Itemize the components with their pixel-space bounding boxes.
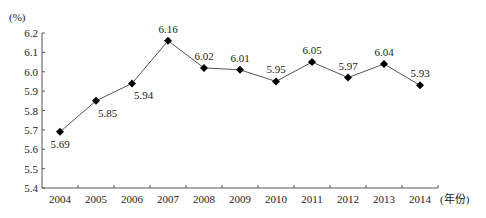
y-tick-label: 6.2: [24, 27, 38, 39]
x-tick-label: 2010: [265, 193, 288, 205]
y-axis: 5.45.55.65.75.85.96.06.16.2: [24, 27, 45, 194]
x-tick-label: 2008: [193, 193, 216, 205]
y-tick-label: 5.6: [24, 143, 38, 155]
y-axis-label: (%): [9, 11, 26, 24]
data-label: 6.04: [374, 46, 394, 58]
y-tick-label: 5.7: [24, 124, 38, 136]
data-series: 5.695.855.946.166.026.015.956.055.976.04…: [50, 23, 430, 150]
diamond-marker: [272, 77, 280, 85]
data-label: 5.97: [338, 60, 358, 72]
x-tick-label: 2012: [337, 193, 359, 205]
data-label: 5.69: [50, 138, 70, 150]
x-tick-label: 2013: [373, 193, 396, 205]
x-tick-label: 2006: [121, 193, 144, 205]
diamond-marker: [416, 81, 424, 89]
data-label: 5.93: [410, 67, 430, 79]
data-label: 5.94: [134, 89, 154, 101]
data-label: 6.01: [230, 52, 249, 64]
y-tick-label: 6.0: [24, 66, 38, 78]
data-label: 6.02: [194, 50, 213, 62]
x-tick-label: 2011: [301, 193, 323, 205]
diamond-marker: [308, 58, 316, 66]
y-tick-label: 5.9: [24, 85, 38, 97]
x-tick-label: 2007: [157, 193, 180, 205]
y-tick-label: 6.1: [24, 46, 38, 58]
data-label: 6.05: [302, 44, 322, 56]
y-tick-label: 5.5: [24, 163, 38, 175]
y-tick-label: 5.4: [24, 182, 38, 194]
x-axis-unit-label: (年份): [440, 192, 470, 206]
diamond-marker: [380, 60, 388, 68]
y-tick-label: 5.8: [24, 105, 38, 117]
line-chart: 5.45.55.65.75.85.96.06.16.2 200420052006…: [0, 0, 486, 218]
data-label: 6.16: [158, 23, 178, 35]
diamond-marker: [236, 66, 244, 74]
x-axis: 2004200520062007200820092010201120122013…: [42, 185, 438, 205]
x-tick-label: 2014: [409, 193, 432, 205]
x-tick-label: 2005: [85, 193, 108, 205]
data-label: 5.95: [266, 63, 286, 75]
data-label: 5.85: [98, 107, 118, 119]
diamond-marker: [344, 74, 352, 82]
x-tick-label: 2009: [229, 193, 252, 205]
diamond-marker: [200, 64, 208, 72]
x-tick-label: 2004: [49, 193, 72, 205]
